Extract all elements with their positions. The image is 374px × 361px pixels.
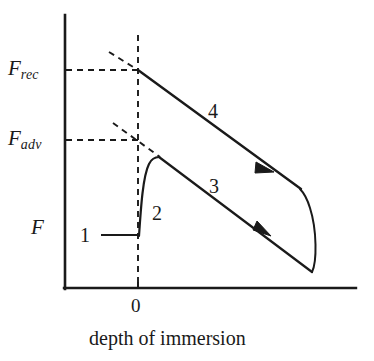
branch-4-extrapolation-dashed bbox=[109, 52, 138, 70]
x-axis-title: depth of immersion bbox=[89, 328, 246, 348]
curve-turnaround-at-max-depth bbox=[300, 189, 316, 272]
y-level-subscript-rec: rec bbox=[21, 67, 39, 82]
segment-label-3: 3 bbox=[209, 176, 219, 196]
curve-segment-3-advancing-branch bbox=[159, 157, 312, 272]
y-level-symbol-f-rec: F bbox=[8, 56, 21, 80]
figure-plot bbox=[0, 0, 374, 361]
y-level-label-f-rec: Frec bbox=[8, 58, 39, 82]
x-axis-tick-label-zero: 0 bbox=[131, 296, 141, 315]
segment-label-2: 2 bbox=[152, 203, 162, 223]
y-level-label-f-adv: Fadv bbox=[8, 128, 42, 152]
curve-segment-2-jump-to-contact bbox=[139, 157, 159, 236]
segment-label-1: 1 bbox=[80, 225, 90, 245]
curve-segment-4-receding-branch bbox=[138, 70, 301, 189]
y-level-symbol-f-adv: F bbox=[8, 126, 21, 150]
y-axis-label-f: F bbox=[31, 217, 44, 238]
figure-container: Frec Fadv F 1 2 3 4 0 depth of immersion bbox=[0, 0, 374, 361]
y-level-subscript-adv: adv bbox=[21, 137, 42, 152]
segment-label-4: 4 bbox=[208, 101, 218, 121]
